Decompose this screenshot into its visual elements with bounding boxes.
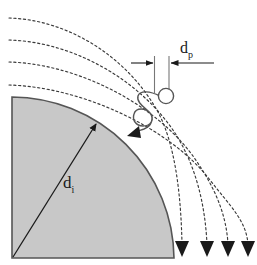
particle-circle <box>158 88 173 103</box>
particle-diameter-symbol: d <box>180 39 188 56</box>
particle-impaction-diagram: dp di <box>0 0 257 265</box>
collector-diameter-subscript: i <box>72 184 75 195</box>
particle-diameter-subscript: p <box>188 49 193 60</box>
